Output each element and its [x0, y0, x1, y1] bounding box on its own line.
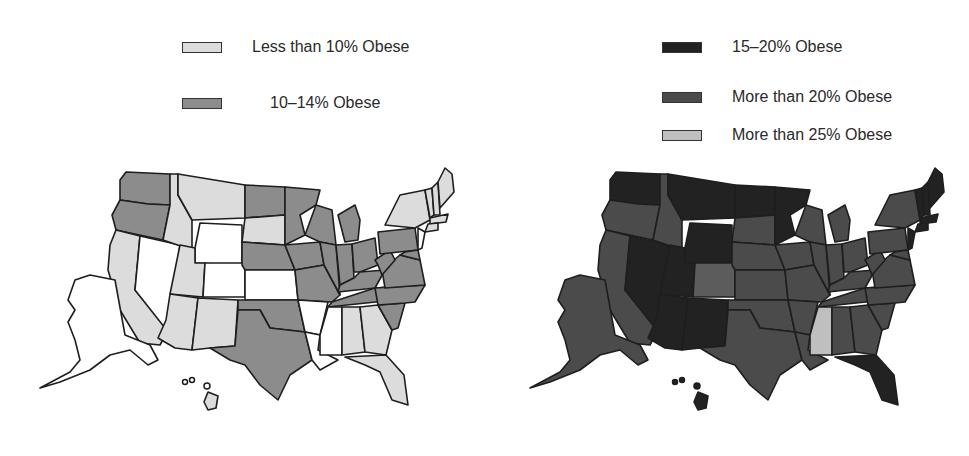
- legend-label: Less than 10% Obese: [252, 38, 409, 56]
- state-nj: [908, 228, 915, 250]
- legend-swatch-light: [182, 42, 222, 53]
- state-mt: [668, 174, 735, 220]
- legend-swatch-mid-dark: [662, 92, 702, 103]
- legend-swatch-light: [662, 130, 702, 141]
- state-me: [928, 168, 944, 208]
- state-nc: [375, 285, 425, 305]
- state-hi: [204, 392, 218, 410]
- state-mi: [338, 205, 360, 242]
- state-hi-island: [204, 383, 210, 389]
- state-hi-island: [673, 380, 678, 385]
- legend-swatch-mid: [182, 98, 222, 109]
- state-ny: [875, 190, 920, 228]
- state-ny: [385, 190, 430, 228]
- state-nd: [245, 185, 285, 218]
- state-mi: [828, 205, 850, 242]
- right-us-map: [510, 160, 950, 440]
- state-wy: [195, 223, 242, 265]
- state-co: [693, 263, 735, 297]
- legend-swatch-dark: [662, 42, 702, 53]
- legend-item-more-than-20: More than 20% Obese: [662, 88, 892, 106]
- state-oh: [842, 238, 868, 272]
- legend-item-15-20: 15–20% Obese: [662, 38, 842, 56]
- state-sd: [242, 215, 285, 245]
- legend-item-less-than-10: Less than 10% Obese: [182, 38, 409, 56]
- state-nm: [682, 298, 728, 350]
- state-wi: [305, 205, 336, 245]
- state-oh: [352, 238, 378, 272]
- state-wa: [120, 172, 170, 205]
- legend-label: 10–14% Obese: [270, 94, 380, 112]
- state-wa: [610, 172, 660, 205]
- state-nj: [418, 228, 425, 250]
- state-mt: [178, 174, 245, 220]
- state-me: [438, 168, 454, 208]
- legend-item-more-than-25: More than 25% Obese: [662, 126, 892, 144]
- state-fl: [345, 355, 408, 405]
- left-us-map: [20, 160, 460, 440]
- state-ct: [915, 223, 928, 232]
- state-nc: [865, 285, 915, 305]
- state-hi: [694, 392, 708, 410]
- state-ks: [245, 270, 298, 300]
- state-hi-island: [694, 383, 700, 389]
- state-fl: [835, 355, 898, 405]
- state-nd: [735, 185, 775, 218]
- legend-label: More than 20% Obese: [732, 88, 892, 106]
- legend-item-10-14: 10–14% Obese: [182, 94, 380, 112]
- state-wy: [685, 223, 732, 265]
- state-hi-island: [680, 378, 685, 383]
- state-sd: [732, 215, 775, 245]
- state-co: [203, 263, 245, 297]
- state-nm: [192, 298, 238, 350]
- legend-label: 15–20% Obese: [732, 38, 842, 56]
- state-pa: [868, 228, 908, 254]
- state-hi-island: [183, 380, 188, 385]
- state-pa: [378, 228, 418, 254]
- state-ct: [425, 223, 438, 232]
- state-hi-island: [190, 378, 195, 383]
- state-ks: [735, 270, 788, 300]
- state-wi: [795, 205, 826, 245]
- legend-label: More than 25% Obese: [732, 126, 892, 144]
